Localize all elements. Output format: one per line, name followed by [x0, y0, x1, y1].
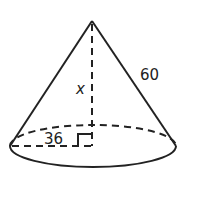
base-front-arc [10, 146, 176, 167]
right-slant-edge [92, 21, 176, 146]
slant-height-label: 60 [140, 66, 159, 84]
radius-label: 36 [44, 130, 63, 148]
height-label: x [75, 80, 85, 98]
cone-diagram: 60 x 36 [0, 0, 215, 197]
right-angle-marker [78, 134, 92, 146]
